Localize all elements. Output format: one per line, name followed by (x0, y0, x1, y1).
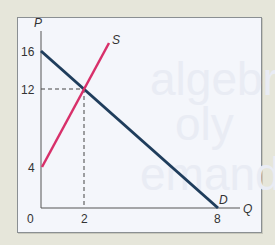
origin-label: 0 (27, 212, 34, 226)
supply-demand-chart: algebra oly emand P Q S D 0 2 8 4 12 16 (0, 0, 275, 245)
y-tick-4: 4 (28, 161, 35, 175)
watermark-line-2: oly (175, 98, 234, 150)
x-tick-2: 2 (81, 212, 88, 226)
y-tick-12: 12 (21, 83, 35, 97)
x-tick-8: 8 (214, 212, 221, 226)
p-axis-label: P (34, 16, 42, 30)
supply-label: S (112, 33, 120, 47)
y-tick-16: 16 (21, 45, 35, 59)
q-axis-label: Q (243, 202, 252, 216)
demand-label: D (219, 193, 228, 207)
